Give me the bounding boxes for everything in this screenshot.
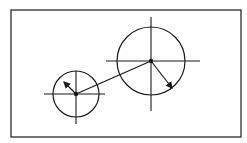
connector-line [76, 61, 151, 94]
circle-small-center-dot [74, 92, 78, 96]
circles [44, 17, 200, 124]
two-circle-diagram [0, 0, 247, 143]
circle-small [44, 71, 105, 124]
diagram-frame [11, 10, 241, 137]
circle-small-radius-arrow-icon [64, 82, 76, 94]
circle-large [106, 17, 200, 111]
circle-large-radius-arrow-icon [151, 61, 172, 88]
connector-line-segment [76, 61, 151, 94]
circle-large-center-dot [149, 59, 153, 63]
